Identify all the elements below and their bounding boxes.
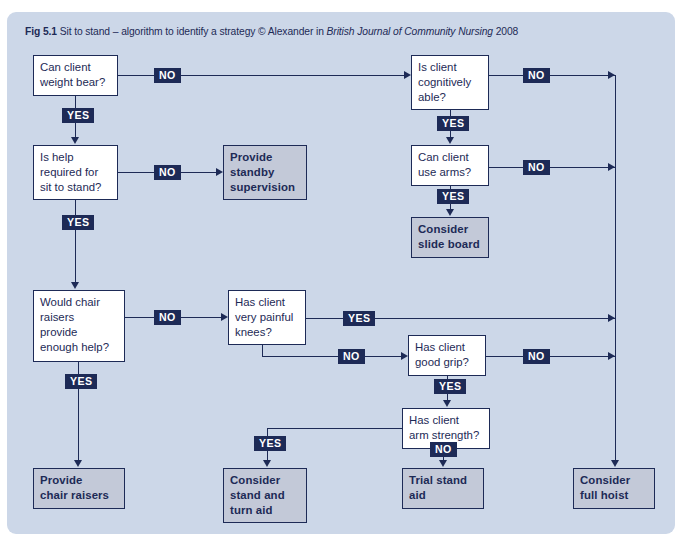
edge-label-chair-no: NO <box>154 310 181 325</box>
figure-caption-year: 2008 <box>493 26 518 37</box>
edge-chair-provide-arrow <box>74 460 82 467</box>
edge-grip-armstrength-arrow <box>443 400 451 407</box>
edge-help-chair-arrow <box>71 282 79 289</box>
node-provide-standby-supervision[interactable]: Provide standby supervision <box>223 145 307 200</box>
figure-panel: Fig 5.1 Sit to stand – algorithm to iden… <box>7 12 675 534</box>
figure-number: Fig 5.1 <box>25 26 57 37</box>
figure-caption-journal: British Journal of Community Nursing <box>327 26 493 37</box>
edge-grip-hoist-line <box>486 356 615 358</box>
edge-label-knees-yes: YES <box>343 311 375 326</box>
figure-caption: Fig 5.1 Sit to stand – algorithm to iden… <box>25 26 518 37</box>
edge-label-usearms-no: NO <box>523 160 550 175</box>
node-consider-stand-and-turn-aid[interactable]: Consider stand and turn aid <box>223 468 307 523</box>
edge-right-spine <box>615 75 617 462</box>
edge-chair-knees-arrow <box>221 313 228 321</box>
edge-weightbear-help-arrow <box>71 137 79 144</box>
edge-label-grip-no: NO <box>523 349 550 364</box>
node-provide-chair-raisers[interactable]: Provide chair raisers <box>33 468 125 509</box>
node-would-chair-raisers[interactable]: Would chair raisers provide enough help? <box>33 290 125 362</box>
edge-right-spine-arrow <box>611 460 619 467</box>
edge-armstrength-turnaid-line <box>267 428 403 430</box>
node-trial-stand-aid[interactable]: Trial stand aid <box>402 468 484 509</box>
edge-label-knees-no: NO <box>338 349 365 364</box>
node-is-client-cognitively-able[interactable]: Is client cognitively able? <box>411 55 489 110</box>
node-consider-slide-board[interactable]: Consider slide board <box>411 217 489 258</box>
node-has-client-very-painful-knees[interactable]: Has client very painful knees? <box>228 290 306 345</box>
edge-label-armstrength-no: NO <box>430 442 457 457</box>
edge-label-help-no: NO <box>154 165 181 180</box>
edge-label-armstrength-yes: YES <box>254 436 286 451</box>
node-is-help-required[interactable]: Is help required for sit to stand? <box>33 145 118 200</box>
edge-label-weightbear-no: NO <box>154 68 181 83</box>
edge-label-cognitive-no: NO <box>523 68 550 83</box>
edge-armstrength-turnaid-arrow <box>263 460 271 467</box>
edge-cognitive-usearms-arrow <box>446 137 454 144</box>
edge-help-chair-line <box>75 200 77 283</box>
edge-label-grip-yes: YES <box>434 379 466 394</box>
edge-label-chair-yes: YES <box>65 374 97 389</box>
node-can-client-use-arms[interactable]: Can client use arms? <box>411 145 489 186</box>
edge-usearms-slideboard-arrow <box>446 209 454 216</box>
edge-knees-grip-line <box>262 356 402 358</box>
node-consider-full-hoist[interactable]: Consider full hoist <box>573 468 655 509</box>
edge-label-weightbear-yes: YES <box>62 108 94 123</box>
node-has-client-good-grip[interactable]: Has client good grip? <box>408 335 486 376</box>
edge-help-standby-arrow <box>216 168 223 176</box>
edge-label-usearms-yes: YES <box>437 189 469 204</box>
edge-knees-grip-arrow <box>401 352 408 360</box>
edge-usearms-hoist-line <box>489 167 615 169</box>
node-can-client-weight-bear[interactable]: Can client weight bear? <box>33 55 118 96</box>
edge-cognitive-hoist-line <box>489 75 615 77</box>
figure-caption-main: Sit to stand – algorithm to identify a s… <box>57 26 327 37</box>
edge-armstrength-trialaid-arrow <box>439 460 447 467</box>
edge-label-cognitive-yes: YES <box>437 116 469 131</box>
edge-weightbear-cognitive-arrow <box>404 71 411 79</box>
edge-label-help-yes: YES <box>62 215 94 230</box>
